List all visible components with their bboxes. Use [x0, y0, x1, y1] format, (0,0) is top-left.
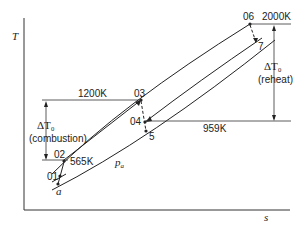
label-02: 02 — [54, 149, 66, 160]
high-pressure-isobar — [52, 24, 250, 174]
label-03: 03 — [134, 88, 146, 99]
label-06: 06 — [243, 11, 255, 22]
combustion-label: (combustion) — [29, 133, 87, 144]
ambient-pressure-isobar — [52, 40, 275, 190]
label-5: 5 — [149, 131, 155, 142]
label-01: 01 — [47, 171, 59, 182]
combustion-process — [64, 100, 141, 160]
label-04: 04 — [130, 116, 142, 127]
label-a: a — [56, 185, 62, 197]
reheat-delta-label: ΔT₀ — [264, 60, 282, 72]
label-2000k: 2000K — [262, 11, 291, 22]
reheat-label: (reheat) — [258, 74, 293, 85]
turbine-expansion — [141, 101, 146, 131]
isobar-label: pa — [114, 156, 125, 170]
point-01 — [58, 174, 61, 177]
x-axis-label: s — [264, 211, 268, 223]
arrowhead-up-combustion — [44, 101, 48, 107]
label-959k: 959K — [203, 123, 227, 134]
mid-pressure-isobar — [145, 38, 262, 122]
arrowhead-up-reheat — [272, 25, 276, 31]
arrowhead-down-reheat — [272, 115, 276, 121]
label-565k: 565K — [70, 156, 94, 167]
combustion-delta-label: ΔT₀ — [37, 119, 55, 131]
isobar-sub: a — [121, 162, 125, 170]
arrowhead-down-combustion — [44, 154, 48, 160]
point-5 — [144, 129, 147, 132]
y-axis-label: T — [12, 30, 19, 42]
ts-diagram: T s 1200K 03 04 5 06 2000K 7 959K 565K 0… — [0, 0, 307, 226]
label-1200k: 1200K — [78, 88, 107, 99]
label-7: 7 — [258, 41, 264, 52]
